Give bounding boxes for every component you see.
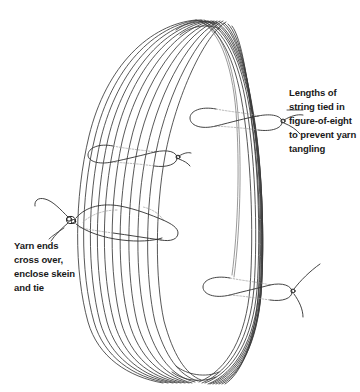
annotation-string-ties: Lengths of string tied in figure-of-eigh… <box>289 86 356 156</box>
skein-strand-bundle-right <box>196 20 263 384</box>
leader-line-yarn-ends <box>49 228 64 239</box>
annotation-string-ties-line-2: string tied in <box>289 100 356 114</box>
annotation-yarn-ends-line-1: Yarn ends <box>14 239 75 253</box>
annotation-yarn-ends-line-2: cross over, <box>14 253 75 267</box>
annotation-string-ties-line-1: Lengths of <box>289 86 356 100</box>
annotation-yarn-ends: Yarn ends cross over, enclose skein and … <box>14 239 75 295</box>
tie-upper-right <box>190 108 303 134</box>
annotation-yarn-ends-line-3: enclose skein <box>14 267 75 281</box>
tie-middle-left <box>88 145 191 166</box>
annotation-string-ties-line-3: figure-of-eight <box>289 114 356 128</box>
annotation-yarn-ends-line-4: and tie <box>14 281 75 295</box>
diagram-page: .yarn { fill: none; stroke: #3a3a3a; str… <box>0 0 360 392</box>
annotation-string-ties-line-4: to prevent yarn <box>289 128 356 142</box>
skein-strand-bundle-left <box>78 20 226 383</box>
annotation-string-ties-line-5: tangling <box>289 142 356 156</box>
yarn-skein-illustration: .yarn { fill: none; stroke: #3a3a3a; str… <box>0 0 360 392</box>
tie-yarn-ends <box>35 198 178 241</box>
